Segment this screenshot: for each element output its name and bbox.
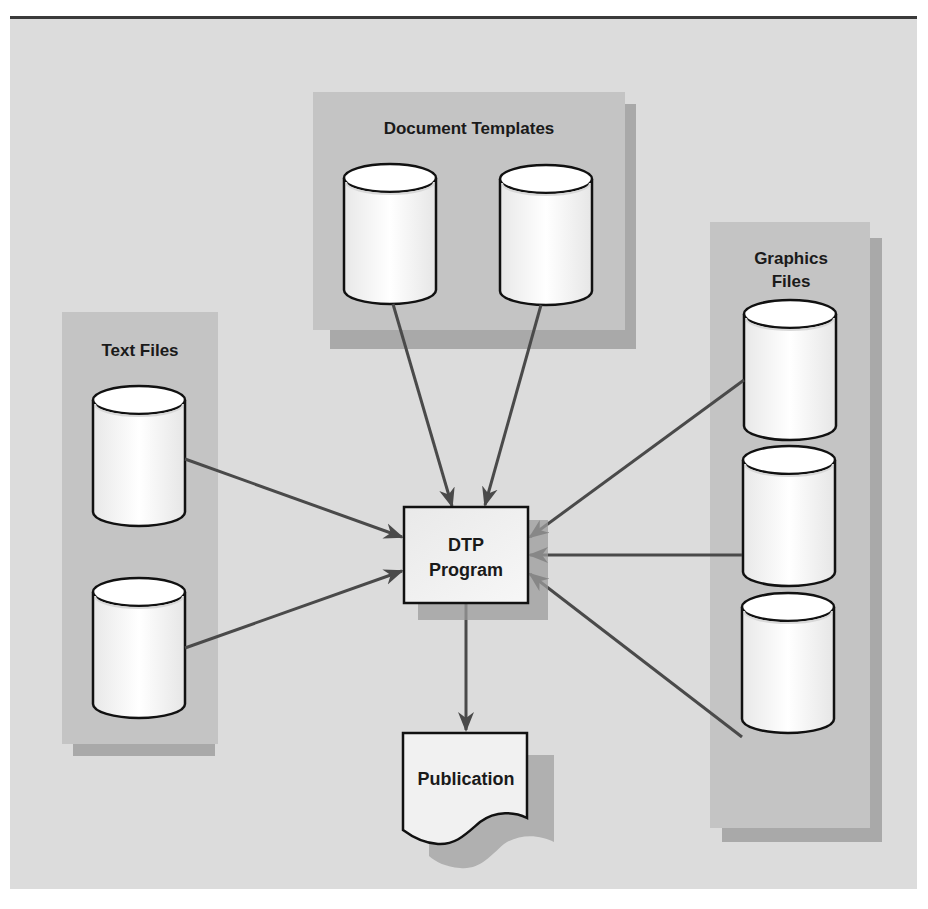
publication-node: Publication <box>403 733 554 868</box>
dtp-label-line1: DTP <box>448 535 484 555</box>
group-text-files: Text Files <box>62 312 218 756</box>
group-graphics-files: Graphics Files <box>710 222 882 842</box>
group-label: Text Files <box>101 341 178 360</box>
group-label-line1: Graphics <box>754 249 828 268</box>
graphics-file-cylinder-2 <box>743 446 835 586</box>
node-box <box>404 507 528 603</box>
group-label-line2: Files <box>772 272 811 291</box>
text-file-cylinder-1 <box>93 386 185 526</box>
publication-label: Publication <box>417 769 514 789</box>
graphics-file-cylinder-3 <box>742 593 834 733</box>
graphics-file-cylinder-1 <box>744 300 836 440</box>
dtp-program-node: DTP Program <box>404 507 548 620</box>
group-label: Document Templates <box>384 119 555 138</box>
group-document-templates: Document Templates <box>313 92 636 349</box>
dtp-label-line2: Program <box>429 560 503 580</box>
dtp-workflow-diagram: Document Templates Text Files Graphics F… <box>0 0 928 909</box>
text-file-cylinder-2 <box>93 578 185 718</box>
document-template-cylinder-1 <box>344 164 436 304</box>
document-template-cylinder-2 <box>500 165 592 305</box>
